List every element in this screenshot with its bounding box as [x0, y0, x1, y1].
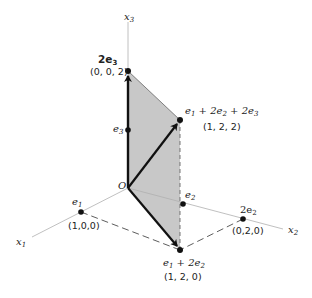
2e2-label: 2e2 — [240, 205, 257, 217]
point-e1 — [78, 209, 84, 215]
point-e3 — [125, 127, 131, 133]
e2-label: e2 — [185, 190, 195, 202]
point-2e2 — [240, 216, 246, 222]
2e3-coords: (0, 0, 2) — [90, 67, 128, 77]
2e2-coords: (0,2,0) — [232, 226, 264, 236]
diagram-canvas — [0, 0, 312, 298]
122-coords: (1, 2, 2) — [203, 122, 241, 132]
vector-space-diagram: x3 x1 x2 O 2e3 (0, 0, 2) e3 e1 + 2e2 + 2… — [0, 0, 312, 298]
120-label: e1 + 2e2 — [163, 258, 205, 270]
122-label: e1 + 2e2 + 2e3 — [185, 106, 258, 118]
point-122 — [177, 117, 183, 123]
point-e2 — [180, 201, 186, 207]
shaded-plane — [128, 71, 180, 250]
point-120 — [177, 247, 183, 253]
e1-label: e1 — [72, 197, 82, 209]
e1-coords: (1,0,0) — [68, 221, 100, 231]
120-coords: (1, 2, 0) — [164, 272, 202, 282]
x1-axis-label: x1 — [16, 237, 26, 249]
x2-axis-label: x2 — [288, 225, 298, 237]
e3-label: e3 — [113, 124, 123, 136]
origin-label: O — [118, 181, 126, 191]
x3-axis-label: x3 — [124, 12, 134, 24]
